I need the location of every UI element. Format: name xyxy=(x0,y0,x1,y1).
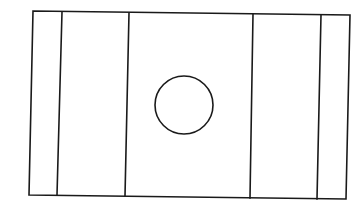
divider-4 xyxy=(317,15,321,199)
divider-1 xyxy=(57,12,62,195)
diagram-canvas xyxy=(0,0,364,213)
divider-3 xyxy=(250,14,253,198)
outer-rectangle xyxy=(29,11,350,199)
vertical-dividers xyxy=(57,12,321,199)
divider-2 xyxy=(125,13,129,196)
center-circle xyxy=(155,76,213,134)
